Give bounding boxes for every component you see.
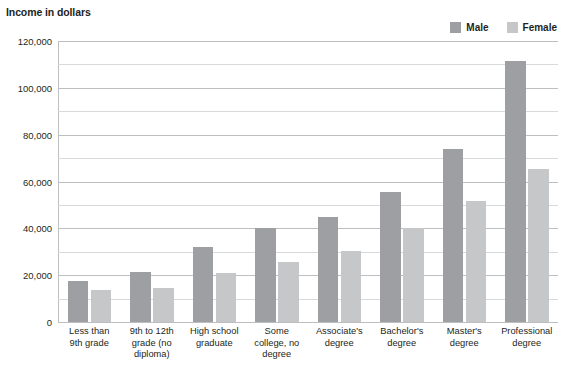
x-tick-label-line: Less than bbox=[58, 326, 121, 338]
x-axis-tick-labels: Less than9th grade9th to 12thgrade (nodi… bbox=[58, 326, 558, 372]
bar-male-2[interactable] bbox=[193, 247, 214, 322]
gridline-110000 bbox=[58, 64, 558, 65]
x-tick-label-line: degree bbox=[433, 338, 496, 350]
bar-male-5[interactable] bbox=[380, 192, 401, 322]
gridline-120000 bbox=[58, 41, 558, 42]
x-tick-label-line: High school bbox=[183, 326, 246, 338]
bar-female-2[interactable] bbox=[216, 273, 237, 322]
x-tick-label-line: diploma) bbox=[121, 349, 184, 361]
x-tick-label-line: graduate bbox=[183, 338, 246, 350]
bar-female-0[interactable] bbox=[91, 290, 112, 322]
x-tick-label-0: Less than9th grade bbox=[58, 326, 121, 349]
gridline-80000 bbox=[58, 135, 558, 136]
income-by-education-bar-chart: Income in dollars MaleFemale 120,000100,… bbox=[0, 0, 573, 373]
legend-label: Male bbox=[466, 22, 488, 33]
x-tick-label-5: Bachelor'sdegree bbox=[371, 326, 434, 349]
x-tick-label-line: Some bbox=[246, 326, 309, 338]
x-tick-label-6: Master'sdegree bbox=[433, 326, 496, 349]
y-tick-label-20000: 20,000 bbox=[23, 270, 52, 281]
gridline-100000 bbox=[58, 88, 558, 89]
y-tick-label-40000: 40,000 bbox=[23, 223, 52, 234]
legend-entry-male[interactable]: Male bbox=[450, 22, 488, 33]
chart-legend: MaleFemale bbox=[450, 22, 557, 33]
x-tick-label-4: Associate'sdegree bbox=[308, 326, 371, 349]
legend-label: Female bbox=[523, 22, 557, 33]
y-tick-label-100000: 100,000 bbox=[18, 82, 52, 93]
bar-female-7[interactable] bbox=[528, 169, 549, 322]
gridline-70000 bbox=[58, 158, 558, 159]
y-tick-label-120000: 120,000 bbox=[18, 36, 52, 47]
bar-male-1[interactable] bbox=[130, 272, 151, 322]
y-tick-label-0: 0 bbox=[47, 317, 52, 328]
x-tick-label-line: Associate's bbox=[308, 326, 371, 338]
bar-male-7[interactable] bbox=[505, 61, 526, 322]
bar-female-3[interactable] bbox=[278, 262, 299, 322]
y-tick-label-60000: 60,000 bbox=[23, 176, 52, 187]
gridline-60000 bbox=[58, 182, 558, 183]
x-tick-label-1: 9th to 12thgrade (nodiploma) bbox=[121, 326, 184, 361]
x-tick-label-line: degree bbox=[371, 338, 434, 350]
bar-male-0[interactable] bbox=[68, 281, 89, 322]
gridline-0 bbox=[58, 322, 558, 323]
x-tick-label-line: 9th to 12th bbox=[121, 326, 184, 338]
x-tick-label-2: High schoolgraduate bbox=[183, 326, 246, 349]
bar-male-3[interactable] bbox=[255, 228, 276, 322]
bar-female-1[interactable] bbox=[153, 288, 174, 322]
bar-female-6[interactable] bbox=[466, 201, 487, 322]
bar-male-4[interactable] bbox=[318, 217, 339, 322]
x-tick-label-7: Professionaldegree bbox=[496, 326, 559, 349]
bar-female-4[interactable] bbox=[341, 251, 362, 322]
legend-entry-female[interactable]: Female bbox=[507, 22, 557, 33]
x-tick-label-line: degree bbox=[496, 338, 559, 350]
x-tick-label-3: Somecollege, nodegree bbox=[246, 326, 309, 361]
x-tick-label-line: degree bbox=[246, 349, 309, 361]
legend-swatch-male-icon bbox=[450, 22, 461, 33]
gridline-90000 bbox=[58, 111, 558, 112]
x-tick-label-line: college, no bbox=[246, 338, 309, 350]
x-tick-label-line: degree bbox=[308, 338, 371, 350]
chart-title: Income in dollars bbox=[6, 6, 91, 18]
x-tick-label-line: Professional bbox=[496, 326, 559, 338]
x-tick-label-line: grade (no bbox=[121, 338, 184, 350]
bar-male-6[interactable] bbox=[443, 149, 464, 322]
bar-female-5[interactable] bbox=[403, 228, 424, 322]
y-tick-label-80000: 80,000 bbox=[23, 129, 52, 140]
plot-area bbox=[58, 41, 558, 322]
legend-swatch-female-icon bbox=[507, 22, 518, 33]
x-tick-label-line: Master's bbox=[433, 326, 496, 338]
x-tick-label-line: 9th grade bbox=[58, 338, 121, 350]
x-tick-label-line: Bachelor's bbox=[371, 326, 434, 338]
